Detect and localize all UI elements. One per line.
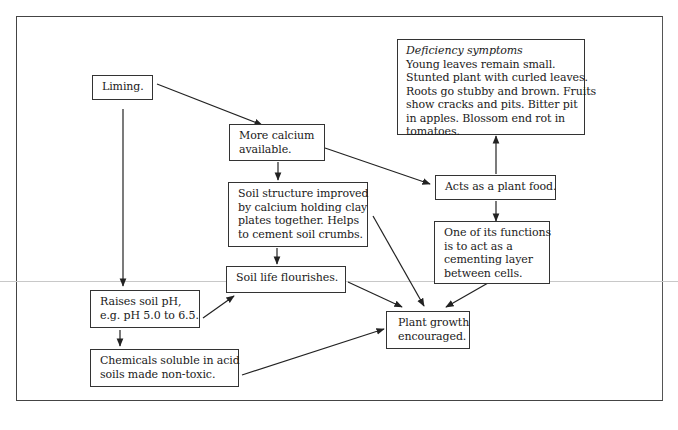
arrow-liming-to-calcium	[157, 84, 262, 125]
node-text: Acts as a plant food.	[445, 180, 546, 194]
arrow-ph-to-life	[203, 296, 234, 318]
node-text: in apples. Blossom end rot in	[406, 112, 576, 126]
node-text: More calcium	[239, 129, 315, 143]
node-title: Deficiency symptoms	[406, 44, 576, 58]
node-text: to cement soil crumbs.	[238, 228, 358, 242]
node-text: Soil life flourishes.	[236, 271, 336, 285]
node-text: plates together. Helps	[238, 214, 358, 228]
node-text: Liming.	[102, 80, 143, 94]
node-text: Young leaves remain small.	[406, 58, 576, 72]
node-text: Raises soil pH,	[100, 295, 190, 309]
arrow-chemicals-to-growth	[242, 329, 384, 375]
node-text: cementing layer	[444, 253, 540, 267]
arrow-calcium-to-food	[325, 148, 430, 184]
node-text: is to act as a	[444, 240, 540, 254]
node-text: One of its functions	[444, 226, 540, 240]
node-text: tomatoes.	[406, 125, 576, 139]
arrow-life-to-growth	[348, 282, 402, 307]
node-more-calcium: More calcium available.	[229, 124, 325, 161]
arrow-cementing-to-growth	[446, 283, 488, 307]
node-chemicals: Chemicals soluble in acid soils made non…	[90, 349, 239, 387]
node-text: encouraged.	[398, 330, 460, 344]
node-text: between cells.	[444, 267, 540, 281]
node-text: Chemicals soluble in acid	[100, 354, 229, 368]
arrow-structure-to-growth	[373, 216, 424, 306]
node-text: by calcium holding clay	[238, 201, 358, 215]
node-liming: Liming.	[92, 75, 153, 100]
node-cementing: One of its functions is to act as a ceme…	[434, 221, 550, 284]
node-plant-food: Acts as a plant food.	[435, 175, 556, 200]
node-text: Stunted plant with curled leaves.	[406, 71, 576, 85]
node-text: Roots go stubby and brown. Fruits	[406, 85, 576, 99]
node-raises-ph: Raises soil pH, e.g. pH 5.0 to 6.5.	[90, 290, 200, 328]
node-text: Soil structure improved	[238, 187, 358, 201]
node-text: available.	[239, 143, 315, 157]
node-plant-growth: Plant growth encouraged.	[386, 311, 470, 349]
node-text: show cracks and pits. Bitter pit	[406, 98, 576, 112]
node-text: Plant growth	[398, 316, 460, 330]
node-deficiency-symptoms: Deficiency symptoms Young leaves remain …	[397, 39, 585, 135]
node-text: soils made non-toxic.	[100, 368, 229, 382]
node-soil-life: Soil life flourishes.	[226, 266, 346, 293]
node-soil-structure: Soil structure improved by calcium holdi…	[228, 182, 368, 247]
node-text: e.g. pH 5.0 to 6.5.	[100, 309, 190, 323]
